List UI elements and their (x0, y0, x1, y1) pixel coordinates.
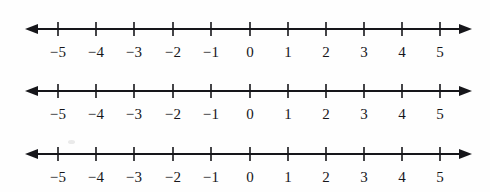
arrow-right-icon (459, 24, 472, 34)
number-line-2: −5−4−3−2−1012345 (0, 62, 490, 126)
arrow-left-icon (25, 24, 38, 34)
arrow-left-icon (25, 149, 38, 159)
number-line-1-axis-graphic (0, 0, 490, 64)
number-line-worksheet: −5−4−3−2−1012345−5−4−3−2−1012345−5−4−3−2… (0, 0, 490, 192)
arrow-right-icon (459, 149, 472, 159)
number-line-2-axis-graphic (0, 62, 490, 126)
arrow-right-icon (459, 86, 472, 96)
number-line-3: −5−4−3−2−1012345 (0, 126, 490, 190)
number-line-3-axis-graphic (0, 126, 490, 190)
number-line-1: −5−4−3−2−1012345 (0, 0, 490, 64)
arrow-left-icon (25, 86, 38, 96)
